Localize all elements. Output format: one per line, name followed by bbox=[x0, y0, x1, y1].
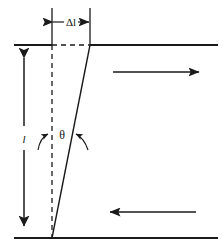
theta-arc-right bbox=[76, 134, 88, 150]
shear-strain-figure: Δl l θ bbox=[0, 0, 224, 252]
shear-angle-marker: θ bbox=[38, 128, 88, 150]
height-label: l bbox=[22, 133, 25, 145]
force-arrows bbox=[110, 72, 199, 212]
delta-l-label: Δl bbox=[66, 16, 76, 28]
theta-arc-left bbox=[38, 134, 48, 150]
theta-label: θ bbox=[59, 128, 65, 142]
figure-canvas: Δl l θ bbox=[0, 0, 224, 252]
displacement-dimension: Δl bbox=[52, 8, 90, 45]
height-dimension: l bbox=[22, 58, 25, 226]
boundary-lines bbox=[14, 45, 218, 238]
